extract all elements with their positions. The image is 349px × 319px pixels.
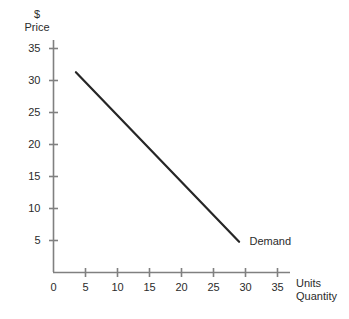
x-axis-title: Units Quantity <box>296 277 337 303</box>
demand-line <box>76 72 239 242</box>
x-axis-tick-label: 5 <box>74 281 98 293</box>
y-axis-tick-label: 35 <box>17 42 41 54</box>
x-axis-tick-label: 0 <box>42 281 66 293</box>
x-axis-tick-label: 10 <box>106 281 130 293</box>
x-axis-name-label: Quantity <box>296 290 337 303</box>
y-axis-tick-label: 30 <box>17 74 41 86</box>
y-axis-name-label: Price <box>14 21 60 34</box>
y-axis-tick-label: 15 <box>17 170 41 182</box>
x-axis-tick-label: 30 <box>234 281 258 293</box>
y-axis-tick-label: 5 <box>17 234 41 246</box>
plot-area <box>0 0 349 319</box>
series-lines <box>76 72 239 242</box>
y-axis-tick-label: 10 <box>17 202 41 214</box>
x-axis-tick-label: 15 <box>138 281 162 293</box>
x-axis-tick-label: 35 <box>266 281 290 293</box>
demand-curve-chart: $ Price Units Quantity 5101520253035 051… <box>0 0 349 319</box>
y-axis-title: $ Price <box>14 8 60 34</box>
x-axis-tick-label: 25 <box>202 281 226 293</box>
x-axis-unit-label: Units <box>296 277 337 290</box>
y-axis-tick-label: 25 <box>17 106 41 118</box>
series-label-demand: Demand <box>250 235 292 247</box>
x-axis-tick-label: 20 <box>170 281 194 293</box>
y-axis-unit-label: $ <box>14 8 60 21</box>
y-axis-tick-label: 20 <box>17 138 41 150</box>
